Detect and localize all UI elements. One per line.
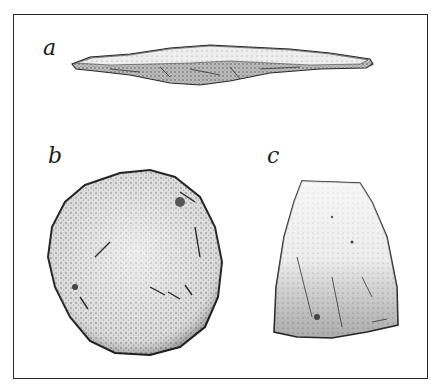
panel-label-a: a xyxy=(43,37,56,59)
artifact-a-flint-blade xyxy=(70,39,375,89)
artifact-c-stone-celt xyxy=(272,177,402,340)
panel-label-c: c xyxy=(267,145,279,167)
panel-label-b: b xyxy=(48,145,62,167)
artifact-b-stone-disc xyxy=(40,167,225,359)
figure-plate: a b xyxy=(13,14,428,379)
